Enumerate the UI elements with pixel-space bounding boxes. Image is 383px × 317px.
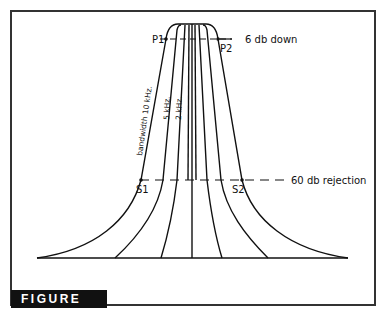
s2-label: S2 [232, 184, 245, 195]
bw5-label: 5 kHz. [162, 96, 172, 120]
p1-label: P1 [152, 34, 164, 45]
p2-label: P2 [220, 43, 232, 54]
curve-2khz-right [199, 25, 222, 258]
six-db-label: 6 db down [245, 34, 297, 45]
curve-2khz-left [161, 25, 185, 258]
curve-inner-left [188, 25, 189, 180]
bw2-label: 2 kHz. [174, 96, 184, 120]
curve-inner-right [195, 25, 196, 180]
figure-label: FIGURE 6.2 [11, 290, 107, 308]
s1-label: S1 [136, 184, 149, 195]
sixty-db-label: 60 db rejection [291, 175, 366, 186]
filter-response-diagram: P1 P2 S1 S2 6 db down 60 db rejection ba… [0, 0, 383, 317]
